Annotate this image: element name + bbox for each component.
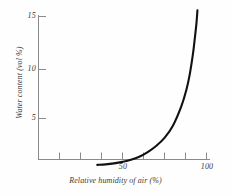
x-axis-title: Relative humidity of air (%) xyxy=(0,176,231,185)
y-tick-label-15: 15 xyxy=(18,11,36,20)
x-tick-label-50: 50 xyxy=(110,162,136,171)
y-axis-title: Water content (vol %) xyxy=(15,23,24,143)
data-curve-sorption-isotherm xyxy=(97,10,197,165)
chart-figure: 15 10 5 50 100 Water content (vol %) Rel… xyxy=(0,0,231,196)
x-tick-label-100: 100 xyxy=(194,162,220,171)
